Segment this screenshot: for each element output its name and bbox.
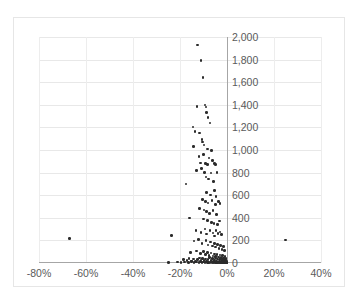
- scatter-point: [218, 247, 221, 250]
- scatter-point: [199, 252, 202, 255]
- scatter-point: [214, 246, 217, 249]
- scatter-point: [183, 261, 186, 264]
- scatter-point: [196, 44, 199, 47]
- x-tick-label: -40%: [121, 268, 146, 279]
- scatter-point: [200, 231, 203, 234]
- scatter-point: [205, 191, 208, 194]
- scatter-point: [195, 229, 198, 232]
- scatter-point: [215, 229, 218, 232]
- scatter-point: [205, 239, 208, 242]
- scatter-point: [200, 167, 203, 170]
- x-tick-label: 40%: [310, 268, 331, 279]
- scatter-point: [205, 233, 208, 236]
- scatter-point: [205, 106, 208, 109]
- y-tick-label: 1,600: [232, 77, 258, 88]
- scatter-point: [222, 245, 225, 248]
- scatter-point: [208, 212, 211, 215]
- scatter-point: [213, 222, 216, 225]
- scatter-point: [214, 203, 217, 206]
- x-tick-label: 20%: [263, 268, 284, 279]
- scatter-point: [206, 148, 209, 151]
- gridline-vertical: [133, 37, 134, 263]
- scatter-point: [203, 144, 206, 147]
- scatter-point: [188, 217, 191, 220]
- chart-card: 02004006008001,0001,2001,4001,6001,8002,…: [13, 17, 345, 287]
- scatter-point: [218, 220, 221, 223]
- scatter-point: [170, 234, 173, 237]
- scatter-point: [223, 249, 226, 252]
- y-tick-label: 1,400: [232, 100, 258, 111]
- scatter-point: [209, 229, 212, 232]
- gridline-vertical: [86, 37, 87, 263]
- x-tick-label: 0%: [219, 268, 234, 279]
- scatter-point: [210, 252, 213, 255]
- scatter-point: [209, 122, 212, 125]
- scatter-point: [212, 232, 215, 235]
- scatter-point: [216, 223, 219, 226]
- scatter-point: [197, 238, 200, 241]
- scatter-point: [167, 261, 170, 264]
- scatter-point: [213, 189, 216, 192]
- scatter-point: [210, 172, 213, 175]
- scatter-point: [189, 251, 192, 254]
- scatter-point: [211, 199, 214, 202]
- scatter-point: [209, 241, 212, 244]
- scatter-point: [176, 261, 179, 264]
- scatter-point: [199, 162, 202, 165]
- gridline-vertical: [274, 37, 275, 263]
- scatter-point: [208, 157, 211, 160]
- y-axis-line: [227, 37, 228, 263]
- scatter-point: [194, 130, 197, 133]
- scatter-point: [210, 149, 213, 152]
- x-axis-tick-labels: -80%-60%-40%-20%0%20%40%: [39, 268, 321, 282]
- y-tick-label: 1,000: [232, 145, 258, 156]
- scatter-point: [213, 235, 216, 238]
- scatter-point: [185, 183, 188, 186]
- x-tick-label: -80%: [27, 268, 52, 279]
- scatter-point: [207, 244, 210, 247]
- scatter-point: [195, 250, 198, 253]
- scatter-point: [198, 155, 201, 158]
- y-tick-label: 200: [232, 235, 250, 246]
- scatter-point: [219, 202, 222, 205]
- scatter-point: [206, 163, 209, 166]
- scatter-point: [212, 180, 215, 183]
- scatter-point: [68, 237, 71, 240]
- scatter-point: [198, 207, 201, 210]
- scatter-point: [204, 228, 207, 231]
- x-tick-label: -20%: [168, 268, 193, 279]
- plot-area: 02004006008001,0001,2001,4001,6001,8002,…: [39, 37, 321, 263]
- gridline-vertical: [39, 37, 40, 263]
- gridline-vertical: [321, 37, 322, 263]
- scatter-point: [214, 163, 217, 166]
- scatter-point: [212, 209, 215, 212]
- scatter-point: [203, 171, 206, 174]
- scatter-point: [205, 111, 208, 114]
- scatter-point: [192, 145, 195, 148]
- scatter-point: [225, 261, 228, 264]
- scatter-point: [196, 105, 199, 108]
- scatter-point: [201, 242, 204, 245]
- scatter-point: [202, 153, 205, 156]
- scatter-point: [207, 178, 210, 181]
- scatter-point: [202, 218, 205, 221]
- gridline-vertical: [180, 37, 181, 263]
- x-tick-label: -60%: [74, 268, 99, 279]
- scatter-point: [202, 76, 205, 79]
- scatter-point: [206, 219, 209, 222]
- scatter-point: [211, 245, 214, 248]
- y-tick-label: 1,200: [232, 122, 258, 133]
- scatter-point: [215, 213, 218, 216]
- scatter-point: [213, 242, 216, 245]
- scatter-point: [201, 141, 204, 144]
- y-tick-label: 400: [232, 213, 250, 224]
- y-tick-label: 600: [232, 190, 250, 201]
- scatter-point: [207, 202, 210, 205]
- scatter-point: [284, 239, 287, 242]
- y-tick-label: 1,800: [232, 55, 258, 66]
- y-tick-label: 800: [232, 168, 250, 179]
- scatter-point: [207, 116, 210, 119]
- scatter-point: [220, 233, 223, 236]
- y-tick-label: 2,000: [232, 32, 258, 43]
- scatter-point: [195, 169, 198, 172]
